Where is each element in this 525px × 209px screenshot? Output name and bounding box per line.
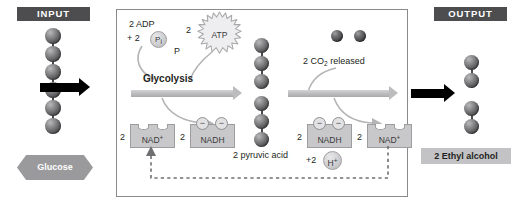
ethanol-molecule bbox=[460, 55, 484, 88]
nad-plus-right-count-text: 2 bbox=[357, 132, 362, 142]
nad-notch bbox=[157, 124, 168, 130]
glycolysis-label: Glycolysis bbox=[143, 73, 193, 84]
carbon-sphere bbox=[45, 46, 61, 62]
nad-plus-right-label: NAD+ bbox=[368, 134, 411, 145]
atp-label-text: ATP bbox=[212, 30, 228, 40]
carbon-sphere bbox=[254, 96, 269, 111]
pyruvate-molecule bbox=[250, 96, 274, 146]
arrow-head bbox=[79, 78, 90, 96]
nad-plus-left-label: NAD+ bbox=[131, 134, 174, 145]
carbon-sphere bbox=[45, 118, 61, 134]
electron-circle: − bbox=[196, 117, 209, 130]
nad-plus-right-box: NAD+ bbox=[367, 124, 412, 148]
nad-plus-left-label-text: NAD bbox=[142, 135, 160, 145]
co2-prefix-text: 2 CO bbox=[303, 56, 324, 66]
carbon-sphere bbox=[254, 74, 269, 89]
arrow-head bbox=[444, 84, 455, 102]
nad-notch bbox=[138, 124, 149, 130]
atp-count-label: 2 bbox=[186, 25, 191, 35]
co2-suffix-text: released bbox=[328, 56, 365, 66]
nad-plus-left-count: 2 bbox=[120, 132, 125, 142]
electron-circle: − bbox=[215, 117, 228, 130]
glucose-label: Glucose bbox=[17, 155, 93, 180]
nadh-right-label: NADH bbox=[308, 135, 351, 145]
nadh-right-count-text: 2 bbox=[297, 132, 302, 142]
electron-circle: − bbox=[313, 117, 326, 130]
nad-plus-left-count-text: 2 bbox=[120, 132, 125, 142]
carbon-sphere bbox=[464, 73, 479, 88]
input-banner: INPUT bbox=[17, 7, 90, 21]
nad-plus-left-superscript: + bbox=[160, 134, 164, 141]
carbon-sphere bbox=[464, 55, 479, 70]
ethyl-alcohol-label-text: 2 Ethyl alcohol bbox=[434, 151, 498, 161]
nadh-right-count: 2 bbox=[297, 132, 302, 142]
carbon-sphere bbox=[45, 28, 61, 44]
carbon-sphere bbox=[254, 56, 269, 71]
carbon-sphere bbox=[254, 132, 269, 147]
electron-glyph: − bbox=[336, 118, 341, 128]
nad-recycle-dashed-path bbox=[124, 146, 396, 188]
nadh-left-count-text: 2 bbox=[180, 132, 185, 142]
electron-circle: − bbox=[332, 117, 345, 130]
carbon-sphere bbox=[464, 101, 479, 116]
carbon-sphere bbox=[254, 38, 269, 53]
atp-count-text: 2 bbox=[186, 25, 191, 35]
nad-notch bbox=[375, 124, 386, 130]
nad-plus-right-superscript: + bbox=[397, 134, 401, 141]
input-arrow bbox=[40, 78, 90, 97]
carbon-sphere bbox=[45, 100, 61, 116]
nad-plus-left-box: NAD+ bbox=[130, 124, 175, 148]
output-arrow bbox=[411, 84, 455, 103]
arrow-head bbox=[389, 86, 398, 100]
nad-plus-right-count: 2 bbox=[357, 132, 362, 142]
arrow-head bbox=[233, 86, 242, 100]
nadh-left-label-text: NADH bbox=[200, 135, 224, 145]
arrow-shaft bbox=[411, 89, 444, 98]
carbon-sphere bbox=[464, 119, 479, 134]
nad-notch bbox=[394, 124, 405, 130]
nadh-right-label-text: NADH bbox=[317, 135, 341, 145]
electron-glyph: − bbox=[317, 118, 322, 128]
co2-sphere bbox=[354, 30, 366, 42]
ethanol-molecule bbox=[460, 101, 484, 134]
glycolysis-label-text: Glycolysis bbox=[143, 73, 193, 84]
electron-glyph: − bbox=[219, 118, 224, 128]
co2-sphere bbox=[331, 30, 343, 42]
nadh-left-label: NADH bbox=[191, 135, 234, 145]
glucose-label-text: Glucose bbox=[37, 162, 73, 172]
nad-plus-right-label-text: NAD bbox=[379, 135, 397, 145]
pyruvate-molecule bbox=[250, 38, 274, 88]
arrow-shaft bbox=[40, 83, 79, 92]
output-banner: OUTPUT bbox=[434, 7, 507, 21]
ethyl-alcohol-label: 2 Ethyl alcohol bbox=[421, 148, 511, 164]
carbon-sphere bbox=[254, 114, 269, 129]
electron-glyph: − bbox=[200, 118, 205, 128]
adp-label: 2 ADP bbox=[129, 19, 155, 29]
nadh-left-count: 2 bbox=[180, 132, 185, 142]
adp-text: 2 ADP bbox=[129, 19, 155, 29]
